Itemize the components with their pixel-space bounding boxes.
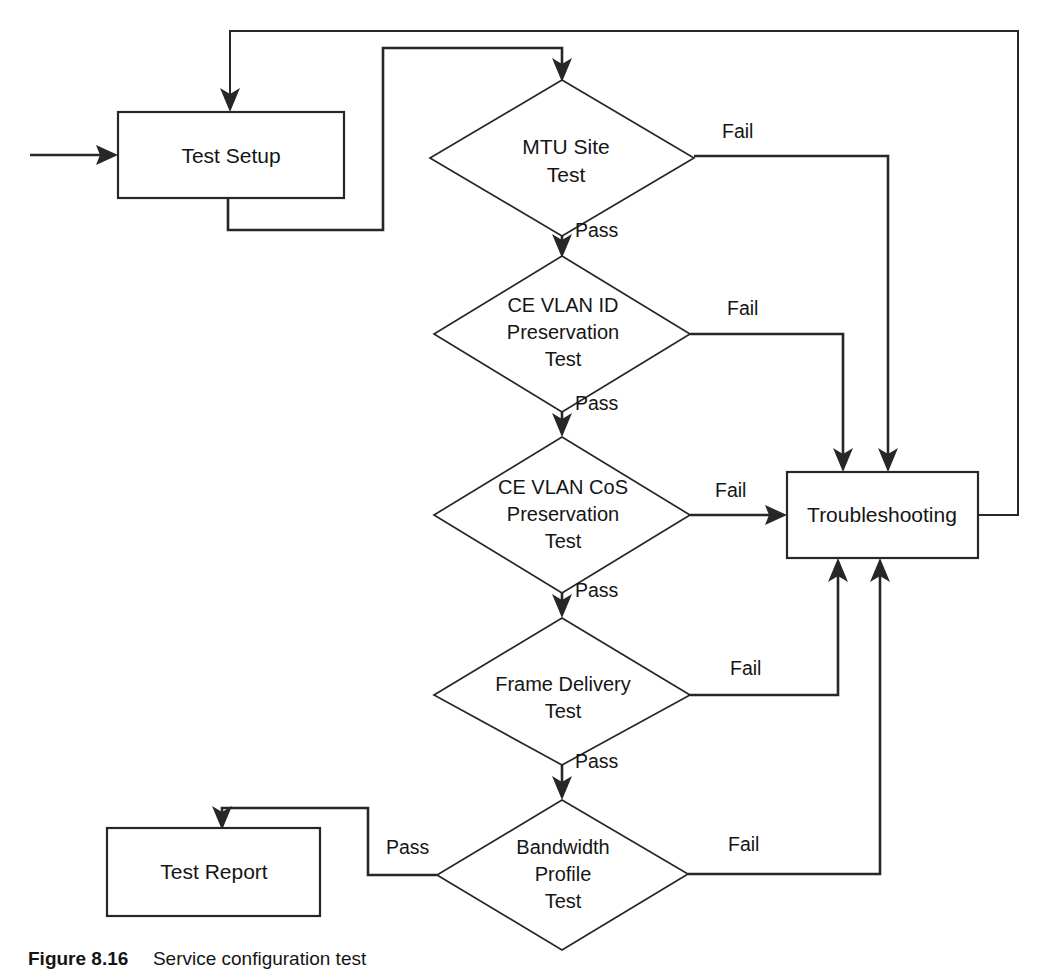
node-frame-delivery-test-label-line2: Test bbox=[545, 700, 582, 722]
edge-frame-delivery-pass-to-bandwidth bbox=[552, 765, 572, 800]
node-ce-vlan-id-test[interactable]: CE VLAN ID Preservation Test bbox=[434, 256, 690, 412]
edge-label-bandwidth-pass: Pass bbox=[386, 836, 430, 858]
edge-vlan-cos-pass-to-frame-delivery bbox=[552, 593, 572, 618]
node-mtu-site-test-label-line1: MTU Site bbox=[522, 135, 610, 158]
edge-label-frame-fail: Fail bbox=[730, 657, 761, 679]
node-ce-vlan-cos-test[interactable]: CE VLAN CoS Preservation Test bbox=[434, 437, 690, 593]
node-bandwidth-profile-test-label-line3: Test bbox=[545, 890, 582, 912]
figure-caption-text: Service configuration test bbox=[153, 948, 366, 969]
node-ce-vlan-cos-test-label-line1: CE VLAN CoS bbox=[498, 476, 628, 498]
figure-caption-number: Figure 8.16 bbox=[28, 948, 128, 969]
edge-bandwidth-fail-to-troubleshooting bbox=[688, 558, 890, 874]
edge-mtu-fail-to-troubleshooting bbox=[694, 156, 898, 472]
edge-vlan-id-fail-to-troubleshooting bbox=[690, 334, 853, 472]
node-ce-vlan-id-test-label-line2: Preservation bbox=[507, 321, 619, 343]
node-mtu-site-test[interactable]: MTU Site Test bbox=[430, 80, 694, 236]
edge-label-bandwidth-fail: Fail bbox=[728, 833, 759, 855]
edge-mtu-pass-to-vlan-id bbox=[552, 234, 572, 258]
edge-frame-delivery-fail-to-troubleshooting bbox=[690, 558, 848, 695]
edge-troubleshooting-to-test-setup-feedback bbox=[220, 31, 1018, 515]
node-troubleshooting-label: Troubleshooting bbox=[807, 503, 957, 526]
edge-vlan-cos-fail-to-troubleshooting bbox=[690, 505, 787, 525]
node-test-report[interactable]: Test Report bbox=[107, 828, 320, 916]
node-bandwidth-profile-test-label-line1: Bandwidth bbox=[516, 836, 609, 858]
edge-label-mtu-fail: Fail bbox=[722, 120, 753, 142]
node-ce-vlan-cos-test-label-line3: Test bbox=[545, 530, 582, 552]
flowchart-canvas: Test Setup MTU Site Test CE VLAN ID Pres… bbox=[0, 0, 1053, 970]
edge-vlan-id-pass-to-vlan-cos bbox=[552, 412, 572, 437]
edge-label-vlan-id-fail: Fail bbox=[727, 297, 758, 319]
node-test-report-label: Test Report bbox=[160, 860, 268, 883]
edge-label-vlan-cos-pass: Pass bbox=[575, 579, 619, 601]
flowchart-svg: Test Setup MTU Site Test CE VLAN ID Pres… bbox=[0, 0, 1053, 970]
edge-entry-to-test-setup bbox=[30, 145, 118, 165]
node-test-setup[interactable]: Test Setup bbox=[118, 112, 344, 198]
node-frame-delivery-test-label-line1: Frame Delivery bbox=[495, 673, 631, 695]
edge-label-mtu-pass: Pass bbox=[575, 219, 619, 241]
edge-label-vlan-cos-fail: Fail bbox=[715, 479, 746, 501]
node-frame-delivery-test[interactable]: Frame Delivery Test bbox=[434, 618, 690, 765]
edge-label-vlan-id-pass: Pass bbox=[575, 392, 619, 414]
figure-caption: Figure 8.16 Service configuration test bbox=[0, 948, 1053, 970]
node-troubleshooting[interactable]: Troubleshooting bbox=[787, 472, 978, 558]
node-ce-vlan-id-test-label-line3: Test bbox=[545, 348, 582, 370]
node-ce-vlan-id-test-label-line1: CE VLAN ID bbox=[507, 294, 618, 316]
node-bandwidth-profile-test-label-line2: Profile bbox=[535, 863, 592, 885]
node-bandwidth-profile-test[interactable]: Bandwidth Profile Test bbox=[437, 800, 688, 950]
node-ce-vlan-cos-test-label-line2: Preservation bbox=[507, 503, 619, 525]
node-test-setup-label: Test Setup bbox=[181, 144, 280, 167]
edge-label-frame-pass: Pass bbox=[575, 750, 619, 772]
node-mtu-site-test-label-line2: Test bbox=[547, 163, 586, 186]
